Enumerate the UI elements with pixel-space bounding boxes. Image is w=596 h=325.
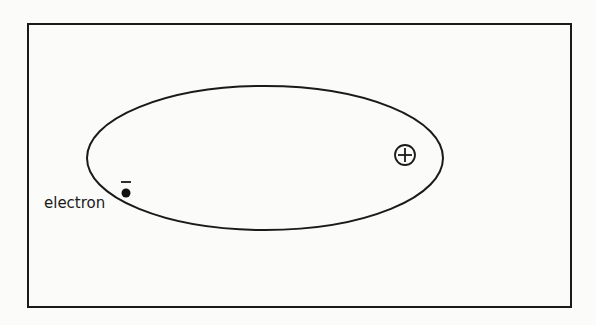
diagram-frame (28, 24, 571, 307)
atom-diagram: electron (0, 0, 596, 325)
electron-dot-icon (122, 189, 131, 198)
electron-particle (121, 182, 131, 198)
electron-label: electron (44, 194, 105, 212)
nucleus-positive-charge-icon (395, 145, 415, 165)
electron-orbit (87, 86, 443, 230)
diagram-svg: electron (0, 0, 596, 325)
